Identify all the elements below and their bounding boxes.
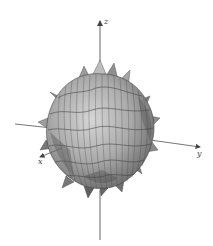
x-axis-label: x [38,157,43,166]
z-axis-label: z [103,17,109,26]
spiky-sphere-surface [38,60,160,198]
y-axis-right [150,140,200,147]
y-axis-label: y [196,149,202,158]
spiky-sphere-figure: z y x [0,0,213,246]
